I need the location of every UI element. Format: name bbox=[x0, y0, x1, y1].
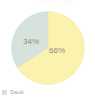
clipped-top-artifact bbox=[30, 0, 80, 5]
legend-swatch-icon bbox=[2, 90, 7, 95]
legend-item-sauk[interactable]: Sauk bbox=[2, 89, 24, 96]
pie-svg bbox=[11, 11, 85, 85]
chart-legend: Sauk bbox=[2, 88, 24, 97]
pie-slice-label-0: 66% bbox=[49, 46, 65, 55]
pie-graphic: 66% 34% bbox=[11, 11, 85, 85]
legend-item-label: Sauk bbox=[10, 89, 24, 96]
pie-slice-label-1: 34% bbox=[23, 37, 39, 46]
pie-chart-figure: 66% 34% Sauk bbox=[0, 0, 95, 99]
